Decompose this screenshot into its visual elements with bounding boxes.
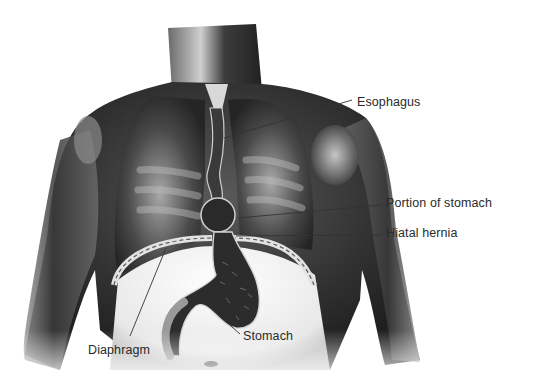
label-diaphragm: Diaphragm bbox=[88, 343, 150, 357]
label-hiatal-hernia: Hiatal hernia bbox=[386, 226, 457, 240]
label-portion-of-stomach: Portion of stomach bbox=[386, 196, 492, 210]
left-shoulder bbox=[74, 116, 102, 164]
label-stomach: Stomach bbox=[243, 329, 293, 343]
right-shoulder bbox=[311, 125, 359, 185]
label-esophagus: Esophagus bbox=[357, 95, 420, 109]
herniated-stomach-portion bbox=[201, 198, 235, 232]
